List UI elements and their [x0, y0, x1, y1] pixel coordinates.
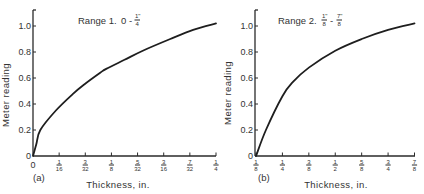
chart-a-x-tick-den: 32: [187, 166, 194, 172]
chart-b-title-to-num: 7": [337, 13, 342, 19]
chart-b-curve: [256, 23, 415, 156]
chart-a-title-prefix: Range 1.: [78, 15, 117, 26]
chart-a-title-to-num: 1": [135, 13, 140, 19]
chart-b-x-tick-den: 4: [386, 166, 390, 172]
chart-a-x-tick-num: 1: [57, 159, 61, 165]
chart-a-x-tick-num: 3: [162, 159, 166, 165]
chart-b-x-tick-den: 4: [281, 166, 285, 172]
chart-b-title-prefix: Range 2.: [278, 15, 317, 26]
chart-b-y-tick-label: 0.8: [240, 47, 253, 57]
chart-b-x-tick-num: 3: [307, 159, 311, 165]
chart-b-y-tick-label: 1.0: [240, 21, 253, 31]
chart-b-title-from-num: 1": [322, 13, 327, 19]
chart-a-x-tick-den: 8: [110, 166, 114, 172]
chart-a-y-tick-label: 0.4: [18, 99, 31, 109]
chart-a-y-label: Meter reading: [0, 63, 11, 127]
chart-b-y-tick-label: 0.2: [240, 125, 253, 135]
chart-a-panel-label: (a): [33, 172, 45, 183]
chart-a-x-tick-num: 3: [84, 159, 88, 165]
chart-a-y-tick-label: 0.2: [18, 125, 31, 135]
chart-a-y-tick-label: 0.6: [18, 73, 31, 83]
chart-a-title-dash: -: [129, 15, 132, 26]
chart-b-title-to-den: 8: [338, 21, 342, 27]
chart-b-x-tick-den: 8: [413, 166, 417, 172]
chart-a-x-tick-num: 1: [110, 159, 114, 165]
chart-a-curve: [33, 23, 216, 156]
chart-b-x-tick-num: 1: [334, 159, 338, 165]
chart-a-x-tick-den: 32: [82, 166, 89, 172]
chart-a-x-tick-num: 7: [188, 159, 192, 165]
chart-b-title-dash: -: [330, 15, 333, 26]
chart-a-x-tick-den: 16: [160, 166, 167, 172]
chart-b-y-tick-label: 0.6: [240, 73, 253, 83]
chart-a-title-from: 0: [121, 15, 126, 26]
chart-b-y-tick-label: 0.4: [240, 99, 253, 109]
chart-a: 00.20.40.60.81.0 01163321853231673214 Ra…: [0, 10, 219, 190]
chart-b-x-tick-den: 8: [254, 166, 258, 172]
chart-a-x-tick-num: 5: [136, 159, 140, 165]
chart-b: 00.20.40.60.81.0 18143812583478 Range 2.…: [222, 10, 417, 190]
chart-b-y-label: Meter reading: [222, 61, 233, 125]
chart-a-x-tick-den: 4: [214, 166, 218, 172]
chart-b-x-tick-den: 8: [307, 166, 311, 172]
chart-b-x-label: Thickness, in.: [304, 179, 368, 190]
chart-b-x-tick-num: 3: [386, 159, 390, 165]
chart-b-x-tick-num: 5: [360, 159, 364, 165]
chart-b-x-tick-num: 7: [413, 159, 417, 165]
chart-a-x-tick-num: 1: [214, 159, 218, 165]
chart-a-y-tick-label: 0.8: [18, 47, 31, 57]
chart-b-x-tick-num: 1: [281, 159, 285, 165]
chart-a-y-tick-label: 1.0: [18, 21, 31, 31]
chart-a-x-tick-den: 16: [56, 166, 63, 172]
chart-b-title: Range 2. 1" 8 - 7" 8: [278, 13, 342, 27]
chart-b-x-tick-num: 1: [254, 159, 258, 165]
chart-a-x-tick-den: 32: [134, 166, 141, 172]
chart-b-title-from-den: 8: [323, 21, 327, 27]
chart-b-y-tick-label: 0: [248, 151, 253, 161]
chart-b-panel-label: (b): [258, 172, 270, 183]
figure: 00.20.40.60.81.0 01163321853231673214 Ra…: [0, 0, 424, 194]
chart-a-x-tick-label: 0: [30, 160, 35, 170]
chart-a-title: Range 1. 0 - 1" 4: [78, 13, 140, 27]
chart-b-x-tick-den: 8: [360, 166, 364, 172]
chart-b-x-tick-den: 2: [334, 166, 338, 172]
chart-a-title-to-den: 4: [136, 21, 140, 27]
chart-a-x-label: Thickness, in.: [86, 179, 150, 190]
